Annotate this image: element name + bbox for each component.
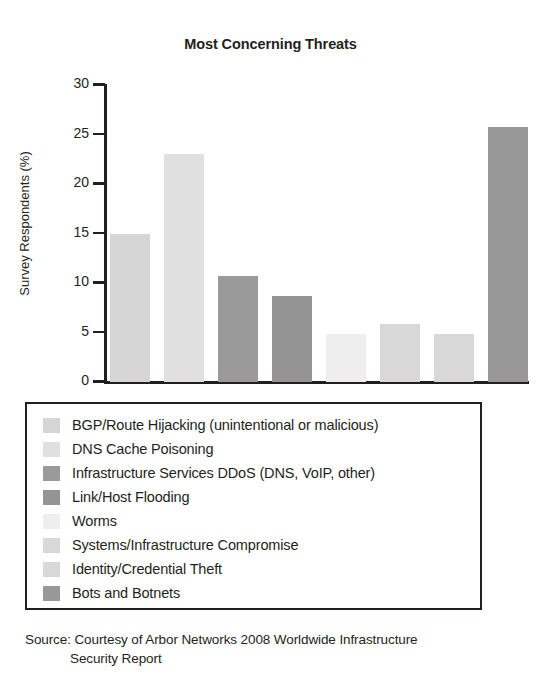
legend: BGP/Route Hijacking (unintentional or ma… — [25, 402, 482, 610]
legend-item-label: DNS Cache Poisoning — [72, 441, 213, 457]
legend-item: Link/Host Flooding — [43, 485, 474, 509]
bar — [326, 334, 366, 382]
source-line-1: Source: Courtesy of Arbor Networks 2008 … — [25, 632, 418, 647]
legend-swatch — [43, 466, 60, 481]
bar — [380, 324, 420, 382]
legend-item-label: Systems/Infrastructure Compromise — [72, 537, 298, 553]
bar — [272, 296, 312, 382]
legend-item-label: Infrastructure Services DDoS (DNS, VoIP,… — [72, 465, 375, 481]
y-tick-label: 20 — [29, 174, 89, 190]
y-tick-label: 25 — [29, 125, 89, 141]
y-tick-label: 5 — [29, 323, 89, 339]
legend-swatch — [43, 490, 60, 505]
y-tick-label: 30 — [29, 75, 89, 91]
bar — [434, 334, 474, 383]
legend-item: BGP/Route Hijacking (unintentional or ma… — [43, 413, 474, 437]
bar-series — [104, 70, 529, 382]
bar — [218, 276, 258, 382]
legend-item-label: Bots and Botnets — [72, 585, 180, 601]
legend-swatch — [43, 538, 60, 553]
y-tick-label: 10 — [29, 273, 89, 289]
legend-item: Infrastructure Services DDoS (DNS, VoIP,… — [43, 461, 474, 485]
legend-item-label: Worms — [72, 513, 117, 529]
y-tick-label: 0 — [29, 372, 89, 388]
legend-item: Systems/Infrastructure Compromise — [43, 533, 474, 557]
legend-item: Worms — [43, 509, 474, 533]
legend-item: Identity/Credential Theft — [43, 557, 474, 581]
source-caption: Source: Courtesy of Arbor Networks 2008 … — [25, 630, 525, 668]
y-tick-label: 15 — [29, 224, 89, 240]
legend-item: Bots and Botnets — [43, 581, 474, 605]
legend-swatch — [43, 514, 60, 529]
legend-item: DNS Cache Poisoning — [43, 437, 474, 461]
bar — [488, 127, 528, 382]
legend-swatch — [43, 562, 60, 577]
plot-area: Survey Respondents (%) 051015202530 — [0, 70, 541, 390]
legend-swatch — [43, 418, 60, 433]
source-line-2: Security Report — [70, 649, 525, 668]
legend-swatch — [43, 442, 60, 457]
legend-item-label: Identity/Credential Theft — [72, 561, 222, 577]
legend-item-label: BGP/Route Hijacking (unintentional or ma… — [72, 417, 378, 433]
legend-swatch — [43, 586, 60, 601]
legend-item-label: Link/Host Flooding — [72, 489, 189, 505]
bar — [110, 234, 150, 383]
chart-title: Most Concerning Threats — [0, 36, 541, 52]
bar — [164, 154, 204, 382]
